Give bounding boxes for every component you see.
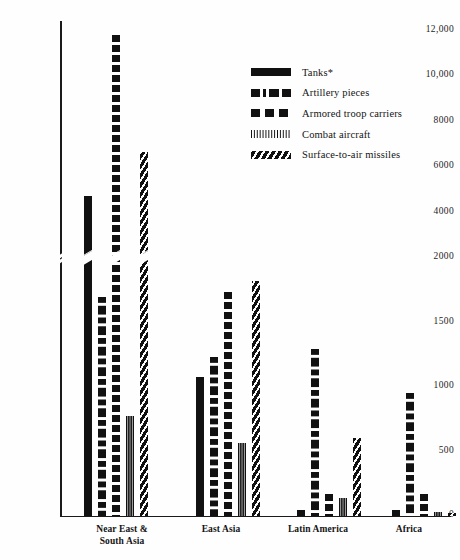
legend-swatch-icon [251, 151, 291, 159]
bar [126, 416, 134, 516]
bar [84, 196, 92, 515]
bar [420, 494, 428, 516]
legend-item: Combat aircraft [251, 124, 402, 145]
bar [196, 377, 204, 516]
bar [448, 513, 456, 516]
bar [252, 281, 260, 515]
legend-swatch-icon [251, 68, 291, 76]
x-group-label-line: South Asia [52, 536, 192, 548]
bar [406, 393, 414, 515]
legend-label: Tanks* [302, 67, 333, 78]
legend-item: Tanks* [251, 62, 402, 83]
legend-item: Artillery pieces [251, 83, 402, 104]
bar [325, 494, 333, 516]
bar [140, 152, 148, 516]
legend-label: Armored troop carriers [302, 108, 402, 119]
bar [311, 349, 319, 515]
legend-item: Armored troop carriers [251, 103, 402, 124]
bar [392, 510, 400, 515]
legend-label: Surface-to-air missiles [302, 149, 400, 160]
bar [339, 498, 347, 516]
x-group-label: Africa [339, 524, 460, 536]
legend-swatch-icon [251, 130, 291, 138]
bar [224, 292, 232, 516]
chart-legend: Tanks*Artillery piecesArmored troop carr… [251, 62, 402, 165]
bar [210, 357, 218, 515]
bar [297, 510, 305, 515]
x-group-label-line: Africa [339, 524, 460, 536]
bar [434, 512, 442, 515]
legend-label: Combat aircraft [302, 129, 370, 140]
x-axis-line [60, 516, 451, 518]
bar [238, 443, 246, 515]
legend-label: Artillery pieces [302, 87, 369, 98]
legend-swatch-icon [251, 89, 291, 97]
bar [353, 438, 361, 515]
bar [98, 297, 106, 516]
legend-item: Surface-to-air missiles [251, 144, 402, 165]
bar [112, 35, 120, 516]
legend-swatch-icon [251, 109, 291, 117]
bar-group [84, 21, 155, 516]
